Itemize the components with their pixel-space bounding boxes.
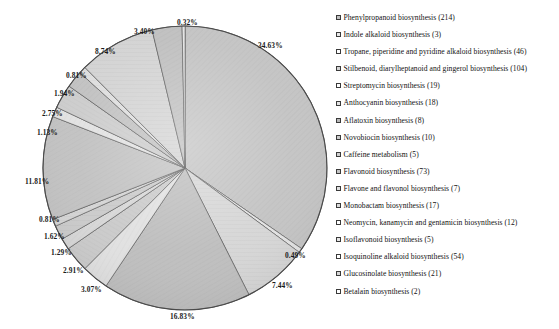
pie-slice-percent-label: 7.44%	[272, 281, 293, 290]
legend-item-label: Phenylpropanoid biosynthesis (214)	[344, 9, 455, 26]
legend-item-label: Betalain biosynthesis (2)	[344, 283, 421, 300]
legend-swatch-icon	[336, 32, 341, 37]
pie-slice-percent-label: 2.75%	[42, 109, 63, 118]
legend-item[interactable]: Aflatoxin biosynthesis (8)	[336, 112, 558, 129]
legend-item-label: Indole alkaloid biosynthesis (3)	[344, 26, 442, 43]
legend-item-label: Novobiocin biosynthesis (10)	[344, 129, 435, 146]
pie-slice-percent-label: 16.83%	[170, 312, 195, 321]
legend-swatch-icon	[336, 254, 341, 259]
legend-swatch-icon	[336, 186, 341, 191]
legend-item[interactable]: Flavonoid biosynthesis (73)	[336, 163, 558, 180]
pie-outer-ring	[43, 26, 327, 310]
legend-item-label: Flavone and flavonol biosynthesis (7)	[344, 180, 461, 197]
legend-item[interactable]: Flavone and flavonol biosynthesis (7)	[336, 180, 558, 197]
legend-swatch-icon	[336, 118, 341, 123]
legend-swatch-icon	[336, 101, 341, 106]
legend-swatch-icon	[336, 289, 341, 294]
pie-slice-percent-label: 0.81%	[66, 71, 87, 80]
legend-swatch-icon	[336, 66, 341, 71]
pie-chart-figure: 34.63%0.49%7.44%16.83%3.07%2.91%1.29%1.6…	[0, 0, 559, 329]
legend-swatch-icon	[336, 49, 341, 54]
legend-item[interactable]: Streptomycin biosynthesis (19)	[336, 77, 558, 94]
legend-item[interactable]: Caffeine metabolism (5)	[336, 146, 558, 163]
pie-slice-percent-label: 1.29%	[51, 248, 72, 257]
legend-item[interactable]: Tropane, piperidine and pyridine alkaloi…	[336, 43, 558, 60]
legend-item[interactable]: Phenylpropanoid biosynthesis (214)	[336, 9, 558, 26]
legend-item-label: Streptomycin biosynthesis (19)	[344, 77, 440, 94]
legend-swatch-icon	[336, 203, 341, 208]
pie-slice-percent-label: 0.49%	[285, 251, 306, 260]
legend-swatch-icon	[336, 271, 341, 276]
legend-item[interactable]: Monobactam biosynthesis (17)	[336, 197, 558, 214]
legend-item[interactable]: Isoflavonoid biosynthesis (5)	[336, 231, 558, 248]
pie-slice-percent-label: 34.63%	[258, 41, 283, 50]
legend-swatch-icon	[336, 237, 341, 242]
pie-slice-percent-label: 0.32%	[177, 18, 198, 27]
pie-slice-percent-label: 8.74%	[95, 47, 116, 56]
pie-slice-percent-label: 11.81%	[25, 177, 49, 186]
legend-item[interactable]: Novobiocin biosynthesis (10)	[336, 129, 558, 146]
pie-slice-percent-label: 0.81%	[39, 215, 60, 224]
pie-slice-percent-label: 2.91%	[63, 266, 84, 275]
legend-item-label: Stilbenoid, diarylheptanoid and gingerol…	[344, 60, 528, 77]
legend-swatch-icon	[336, 15, 341, 20]
legend-item-label: Isoflavonoid biosynthesis (5)	[344, 231, 434, 248]
pie-slice-percent-label: 1.94%	[54, 89, 75, 98]
pie-chart-plot-area: 34.63%0.49%7.44%16.83%3.07%2.91%1.29%1.6…	[0, 0, 330, 329]
legend-item-label: Tropane, piperidine and pyridine alkaloi…	[344, 43, 527, 60]
legend-item-label: Anthocyanin biosynthesis (18)	[344, 94, 439, 111]
pie-sheen-overlay	[43, 26, 327, 310]
pie-slice-percent-label: 1.13%	[37, 128, 58, 137]
legend-item-label: Glucosinolate biosynthesis (21)	[344, 265, 442, 282]
pie-slice-percent-label: 1.62%	[44, 232, 65, 241]
legend-item[interactable]: Isoquinoline alkaloid biosynthesis (54)	[336, 248, 558, 265]
legend-item-label: Neomycin, kanamycin and gentamicin biosy…	[344, 214, 518, 231]
legend-item-label: Aflatoxin biosynthesis (8)	[344, 112, 425, 129]
legend-item[interactable]: Anthocyanin biosynthesis (18)	[336, 94, 558, 111]
legend-swatch-icon	[336, 169, 341, 174]
legend-item[interactable]: Betalain biosynthesis (2)	[336, 283, 558, 300]
legend-item[interactable]: Indole alkaloid biosynthesis (3)	[336, 26, 558, 43]
legend-swatch-icon	[336, 135, 341, 140]
legend-item-label: Flavonoid biosynthesis (73)	[344, 163, 430, 180]
pie-slice-percent-label: 3.07%	[81, 285, 102, 294]
legend-item[interactable]: Neomycin, kanamycin and gentamicin biosy…	[336, 214, 558, 231]
legend-item[interactable]: Stilbenoid, diarylheptanoid and gingerol…	[336, 60, 558, 77]
legend-swatch-icon	[336, 220, 341, 225]
legend-item-label: Caffeine metabolism (5)	[344, 146, 419, 163]
legend-swatch-icon	[336, 83, 341, 88]
pie-slice-percent-label: 3.40%	[134, 27, 155, 36]
legend-item-label: Monobactam biosynthesis (17)	[344, 197, 439, 214]
legend-item[interactable]: Glucosinolate biosynthesis (21)	[336, 265, 558, 282]
chart-legend: Phenylpropanoid biosynthesis (214)Indole…	[336, 9, 558, 321]
legend-swatch-icon	[336, 152, 341, 157]
legend-item-label: Isoquinoline alkaloid biosynthesis (54)	[344, 248, 464, 265]
